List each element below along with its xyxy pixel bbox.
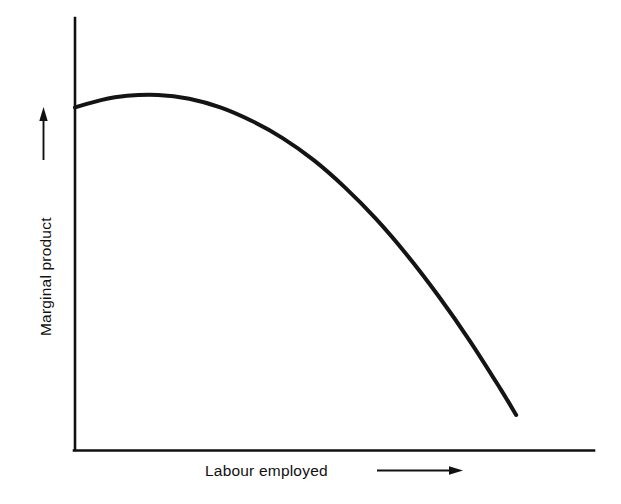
chart-background bbox=[0, 0, 621, 504]
chart-canvas: Marginal product Labour employed bbox=[0, 0, 621, 504]
y-axis-label: Marginal product bbox=[37, 217, 54, 336]
x-axis-label: Labour employed bbox=[205, 462, 328, 479]
